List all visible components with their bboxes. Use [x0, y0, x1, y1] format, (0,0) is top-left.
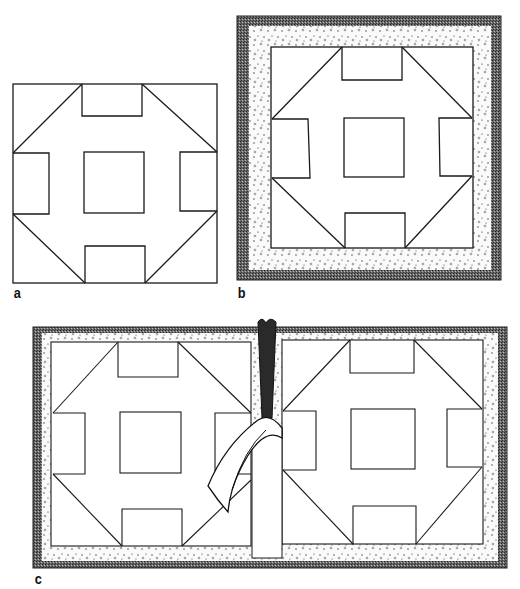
panel-c-double-block: [33, 319, 507, 568]
label-b: b: [238, 284, 246, 301]
panel-a-block: [13, 84, 217, 283]
panel-b-framed-block: [237, 16, 501, 280]
label-c: c: [35, 570, 42, 587]
quilt-diagram: [0, 0, 520, 589]
label-a: a: [14, 284, 21, 301]
